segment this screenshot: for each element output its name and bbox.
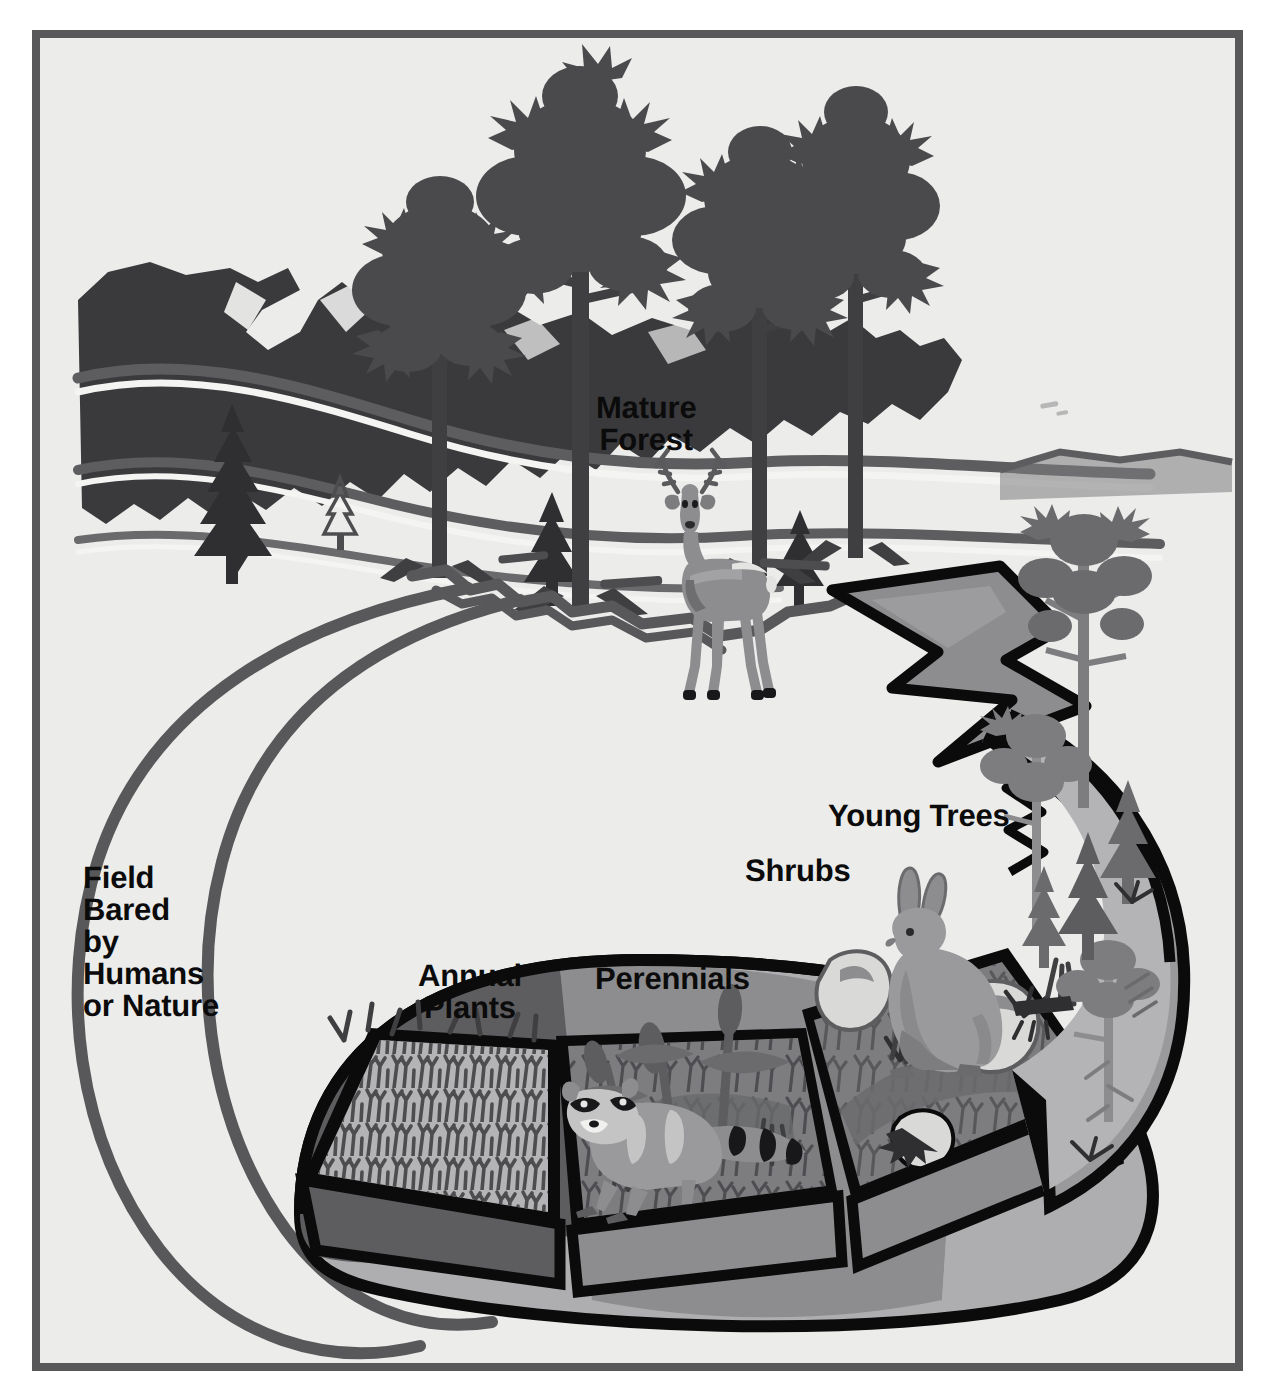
label-annual-plants: Annual Plants — [410, 960, 530, 1024]
succession-diagram-stage: Mature Forest Field Bared by Humans or N… — [0, 0, 1273, 1397]
label-perennials: Perennials — [595, 963, 750, 995]
paper-scuffs — [1040, 401, 1069, 416]
label-young-trees: Young Trees — [828, 800, 1010, 832]
panel-annual-plants — [302, 1002, 560, 1284]
deer-legs — [684, 612, 774, 694]
label-mature-forest: Mature Forest — [596, 392, 696, 456]
diagram-canvas — [0, 0, 1273, 1397]
label-field-bared: Field Bared by Humans or Nature — [83, 862, 219, 1022]
label-shrubs: Shrubs — [745, 855, 851, 887]
